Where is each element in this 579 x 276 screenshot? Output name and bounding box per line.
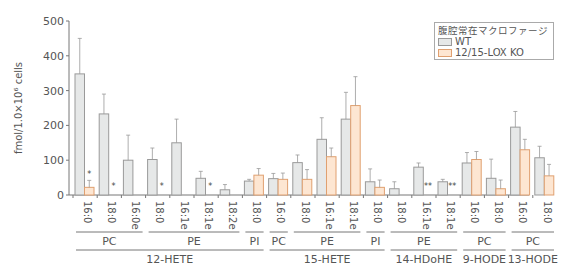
bar-wt [244,181,254,195]
legend-label-wt: WT [455,36,471,47]
y-tick-label: 300 [43,85,64,98]
species-label: 18:1e [203,201,214,230]
bar-ko [351,106,361,195]
bar-wt [196,178,206,195]
legend-item-wt: WT [438,36,550,47]
legend-swatch-ko [438,49,452,57]
bar-wt [341,119,351,195]
class-label: PC [102,235,117,248]
significance-marker: ** [448,182,456,191]
bar-wt [269,179,279,195]
group-label: 14-HDoHE [396,253,453,266]
species-label: 18:0 [372,201,383,223]
bar-wt [390,189,400,195]
y-tick-label: 100 [43,154,64,167]
bar-wt [172,143,182,195]
y-axis-label: fmol/1.0×10⁶ cells [13,62,24,154]
group-label: 13-HODE [508,253,558,266]
bar-ko [375,187,385,195]
species-label: 18:0 [493,201,504,223]
y-tick-label: 500 [43,15,64,28]
species-label: 16:1e [421,201,432,230]
class-label: PC [526,235,541,248]
y-tick-label: 0 [57,189,64,202]
species-label: 18:0 [251,201,262,223]
species-label: 16:1e [179,201,190,230]
y-tick-label: 400 [43,50,64,63]
bar-ko [302,179,312,195]
bar-wt [220,190,230,195]
bar-ko [472,160,482,195]
bar-wt [486,178,496,195]
group-label: 12-HETE [146,253,193,266]
class-label: PE [320,235,334,248]
bar-wt [148,160,158,195]
bar-ko [544,176,554,195]
bars: ******** [75,38,554,195]
x-axis-labels: 16:018:016:0ePC18:016:1e18:1e18:2ePE18:0… [76,201,558,266]
bar-wt [365,182,375,195]
species-label: 18:0 [396,201,407,223]
class-label: PE [187,235,201,248]
significance-marker: ** [424,182,432,191]
species-label: 18:1e [445,201,456,230]
bar-wt [75,74,85,195]
species-label: 18:0 [154,201,165,223]
bar-wt [99,114,109,195]
legend-title: 腹腔常在マクロファージ [438,25,550,36]
species-label: 16:0 [82,201,93,223]
class-label: PI [371,235,381,248]
bar-ko [496,189,506,195]
legend-swatch-wt [438,38,452,46]
significance-marker: * [111,182,115,191]
legend-item-ko: 12/15-LOX KO [438,47,550,58]
species-label: 16:0 [275,201,286,223]
bar-wt [414,167,424,195]
bar-wt [123,160,132,195]
bar-ko [278,179,288,195]
species-label: 16:0e [130,201,141,230]
bar-wt [317,139,327,195]
species-label: 16:0 [517,201,528,223]
species-label: 16:0 [469,201,480,223]
y-tick-label: 200 [43,119,64,132]
bar-ko [85,187,95,195]
species-label: 18:0 [300,201,311,223]
group-label: 15-HETE [304,253,351,266]
legend: 腹腔常在マクロファージ WT 12/15-LOX KO [434,22,554,60]
bar-wt [462,163,472,195]
significance-marker: * [208,182,212,191]
bar-ko [520,150,530,195]
species-label: 18:0 [542,201,553,223]
bar-ko [254,175,264,195]
species-label: 16:1e [324,201,335,230]
species-label: 18:0 [106,201,117,223]
species-label: 18:2e [227,201,238,230]
legend-label-ko: 12/15-LOX KO [455,47,524,58]
class-label: PC [272,235,287,248]
bar-wt [535,158,545,195]
bar-wt [511,127,520,195]
class-label: PC [477,235,492,248]
class-label: PE [417,235,431,248]
significance-marker: * [87,170,91,179]
significance-marker: * [160,182,164,191]
bar-wt [438,182,448,195]
class-label: PI [250,235,260,248]
species-label: 18:1e [348,201,359,230]
group-label: 9-HODE [463,253,506,266]
bar-ko [327,157,337,195]
bar-wt [293,163,303,195]
